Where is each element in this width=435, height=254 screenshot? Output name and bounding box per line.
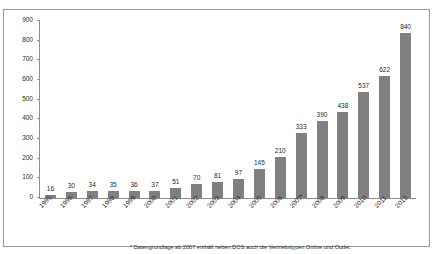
x-axis-label-slot: 2002 xyxy=(186,201,207,231)
bar-slot: 390 xyxy=(312,21,333,198)
y-axis-tick-label: 0 xyxy=(29,192,33,201)
chart-footnote: * Datengrundlage ab 2007 enthält neben D… xyxy=(130,243,351,251)
bar-value-label: 35 xyxy=(109,181,116,189)
bar-value-label: 210 xyxy=(275,147,286,155)
y-axis-tick-label: 900 xyxy=(22,15,33,24)
x-axis-label-slot: 2009 xyxy=(332,201,353,231)
bar-slot: 622 xyxy=(374,21,395,198)
x-axis-labels: 1995199619971998199920002001200220032004… xyxy=(39,201,416,231)
x-axis-label-slot: 1997 xyxy=(81,201,102,231)
bar-value-label: 81 xyxy=(214,172,221,180)
bar-slot: 70 xyxy=(186,21,207,198)
bar-slot: 333 xyxy=(291,21,312,198)
x-axis-label-slot: 2010 xyxy=(353,201,374,231)
bar-value-label: 333 xyxy=(296,123,307,131)
x-axis-label-slot: 2007* xyxy=(290,201,311,231)
y-axis-tick: 900 xyxy=(5,20,40,21)
y-axis-tick: 800 xyxy=(5,40,40,41)
bar-slot: 36 xyxy=(124,21,145,198)
bar-slot: 210 xyxy=(270,21,291,198)
chart-frame: 9008007006005004003002001000 16303435363… xyxy=(3,9,430,247)
bar-value-label: 36 xyxy=(130,181,137,189)
y-axis-tick: 0 xyxy=(5,197,40,198)
bar-slot: 97 xyxy=(228,21,249,198)
y-axis-tick-label: 400 xyxy=(22,113,33,122)
bar[interactable] xyxy=(337,112,348,198)
y-axis-tick: 400 xyxy=(5,118,40,119)
bar-slot: 37 xyxy=(144,21,165,198)
y-axis-tick-label: 100 xyxy=(22,172,33,181)
x-axis-label-slot: 1999 xyxy=(123,201,144,231)
y-axis-tick: 600 xyxy=(5,79,40,80)
y-axis-tick: 100 xyxy=(5,177,40,178)
bar-value-label: 438 xyxy=(337,102,348,110)
y-axis-tick-label: 300 xyxy=(22,133,33,142)
x-axis-label-slot: 1996 xyxy=(60,201,81,231)
x-axis-label-slot: 2012 xyxy=(395,201,416,231)
y-axis-tick-label: 600 xyxy=(22,74,33,83)
chart-plot-wrapper: 9008007006005004003002001000 16303435363… xyxy=(4,10,431,248)
bar-slot: 81 xyxy=(207,21,228,198)
bar[interactable] xyxy=(379,76,390,198)
bar-series: 1630343536375170819714521033339043853762… xyxy=(40,21,416,198)
y-axis-tick-label: 800 xyxy=(22,35,33,44)
bar-slot: 145 xyxy=(249,21,270,198)
x-axis-label-slot: 2003 xyxy=(207,201,228,231)
bar-slot: 51 xyxy=(165,21,186,198)
y-axis-tick-label: 700 xyxy=(22,54,33,63)
x-axis-label-slot: 1998 xyxy=(102,201,123,231)
bar-value-label: 622 xyxy=(379,66,390,74)
bar-value-label: 51 xyxy=(172,178,179,186)
y-axis-tick: 500 xyxy=(5,99,40,100)
bar-slot: 438 xyxy=(332,21,353,198)
bar-value-label: 70 xyxy=(193,174,200,182)
x-axis-label-slot: 2011 xyxy=(374,201,395,231)
bar[interactable] xyxy=(317,121,328,198)
y-axis-tick-label: 200 xyxy=(22,153,33,162)
x-axis-label-slot: 2004 xyxy=(227,201,248,231)
y-axis-tick-label: 500 xyxy=(22,94,33,103)
bar[interactable] xyxy=(275,157,286,198)
y-axis-tick: 300 xyxy=(5,138,40,139)
bar-value-label: 840 xyxy=(400,23,411,31)
x-axis-label-slot: 2000 xyxy=(144,201,165,231)
bar-value-label: 16 xyxy=(47,185,54,193)
bar[interactable] xyxy=(400,33,411,198)
bar[interactable] xyxy=(296,133,307,198)
bar[interactable] xyxy=(254,169,265,198)
x-axis-label-slot: 1995 xyxy=(39,201,60,231)
chart-plot-area: 9008007006005004003002001000 16303435363… xyxy=(39,21,416,199)
bar[interactable] xyxy=(358,92,369,198)
y-axis-tick: 200 xyxy=(5,158,40,159)
bar-value-label: 537 xyxy=(358,82,369,90)
bar-value-label: 34 xyxy=(89,181,96,189)
bar-slot: 537 xyxy=(353,21,374,198)
x-axis-label-slot: 2001 xyxy=(165,201,186,231)
x-axis-label-slot: 2006 xyxy=(269,201,290,231)
y-axis-tick: 700 xyxy=(5,59,40,60)
bar-slot: 840 xyxy=(395,21,416,198)
bar-slot: 16 xyxy=(40,21,61,198)
bar-value-label: 390 xyxy=(317,111,328,119)
bar-value-label: 97 xyxy=(235,169,242,177)
bar-slot: 30 xyxy=(61,21,82,198)
bar-value-label: 145 xyxy=(254,159,265,167)
bar-value-label: 37 xyxy=(151,181,158,189)
x-axis-label-slot: 2005 xyxy=(248,201,269,231)
bar-slot: 35 xyxy=(103,21,124,198)
bar-value-label: 30 xyxy=(68,182,75,190)
x-axis-label-slot: 2008 xyxy=(311,201,332,231)
bar-slot: 34 xyxy=(82,21,103,198)
